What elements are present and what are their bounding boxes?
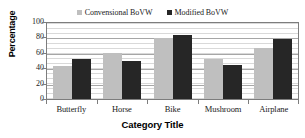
bar-convensional-bike <box>154 38 173 99</box>
chart-legend: Convensional BoVW Modified BoVW <box>0 8 305 17</box>
bar-convensional-airplane <box>254 48 273 99</box>
x-label-butterfly: Butterfly <box>46 104 97 115</box>
bar-convensional-mushroom <box>204 59 223 99</box>
bar-convensional-butterfly <box>53 66 72 99</box>
y-axis-tick-labels: 100 80 60 40 20 0 <box>22 22 44 100</box>
y-tick-label: 40 <box>22 64 44 72</box>
x-axis-category-labels: Butterfly Horse Bike Mushroom Airplane <box>46 104 299 115</box>
bar-group-airplane <box>248 23 298 99</box>
y-tick-label: 0 <box>22 95 44 103</box>
bar-group-butterfly <box>47 23 97 99</box>
bar-group-mushroom <box>198 23 248 99</box>
legend-swatch-icon-convensional <box>77 10 82 15</box>
y-tick-label: 20 <box>22 80 44 88</box>
bar-group-horse <box>97 23 147 99</box>
bar-modified-horse <box>122 61 141 99</box>
legend-item-convensional-bovw: Convensional BoVW <box>77 8 153 17</box>
y-axis-title: Percentage <box>6 0 18 70</box>
y-tick-label: 80 <box>22 33 44 41</box>
y-tick-label: 100 <box>22 18 44 26</box>
bar-modified-airplane <box>273 39 292 99</box>
bar-modified-butterfly <box>72 59 91 99</box>
x-label-horse: Horse <box>97 104 148 115</box>
legend-label-modified: Modified BoVW <box>175 8 229 17</box>
bar-series-container <box>47 23 298 99</box>
legend-label-convensional: Convensional BoVW <box>85 8 153 17</box>
bar-modified-bike <box>173 35 192 99</box>
bar-chart: Convensional BoVW Modified BoVW Percenta… <box>0 0 305 138</box>
x-label-mushroom: Mushroom <box>198 104 249 115</box>
legend-item-modified-bovw: Modified BoVW <box>167 8 229 17</box>
x-axis-title: Category Title <box>0 119 305 131</box>
bar-convensional-horse <box>103 53 122 99</box>
y-tick-label: 60 <box>22 49 44 57</box>
x-label-airplane: Airplane <box>248 104 299 115</box>
legend-swatch-icon-modified <box>167 10 172 15</box>
x-label-bike: Bike <box>147 104 198 115</box>
plot-area <box>46 22 299 100</box>
bar-modified-mushroom <box>223 65 242 99</box>
bar-group-bike <box>147 23 197 99</box>
